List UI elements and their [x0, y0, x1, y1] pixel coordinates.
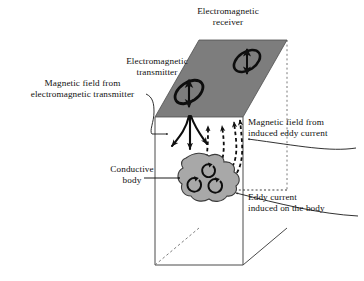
label-conductive-body: Conductive body [96, 164, 168, 185]
leader-mf-eddy [248, 139, 356, 149]
ground-plane [155, 40, 287, 117]
soil-block-hidden-edges [155, 228, 287, 265]
label-transmitter: Electromagnetic transmitter [105, 56, 209, 77]
label-magnetic-field-eddy: Magnetic field from induced eddy current [248, 117, 364, 138]
electromagnetic-survey-diagram [0, 0, 364, 281]
primary-field-arrows [172, 116, 207, 149]
label-eddy-current-body: Eddy current induced on the body [248, 192, 364, 213]
label-receiver: Electromagnetic receiver [168, 6, 288, 27]
label-magnetic-field-transmitter: Magnetic field from electromagnetic tran… [10, 78, 155, 99]
